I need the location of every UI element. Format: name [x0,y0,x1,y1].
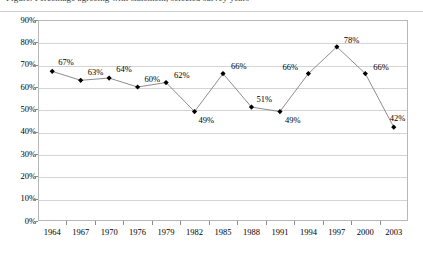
data-point-marker [107,75,112,80]
y-tick-label: 70% [2,60,36,69]
y-tick-mark [34,221,38,222]
x-tick-mark [209,221,210,225]
data-point-label: 66% [282,63,298,72]
data-point-label: 64% [116,65,132,74]
x-tick-label: 2000 [357,228,374,237]
x-tick-label: 1991 [271,228,288,237]
x-tick-label: 1985 [215,228,232,237]
x-tick-label: 1997 [328,228,345,237]
data-point-label: 51% [256,95,272,104]
x-tick-mark [66,221,67,225]
x-tick-label: 1967 [72,228,89,237]
data-point-marker [391,125,396,130]
x-tick-mark [180,221,181,225]
x-tick-mark [95,221,96,225]
data-point-label: 66% [373,63,389,72]
x-tick-mark [123,221,124,225]
y-tick-label: 10% [2,194,36,203]
x-tick-mark [294,221,295,225]
x-tick-mark [266,221,267,225]
data-point-label: 62% [174,71,190,80]
chart-container: Figure. Percentage agreeing with stateme… [0,0,423,255]
y-tick-label: 30% [2,150,36,159]
data-point-label: 60% [145,75,161,84]
x-tick-label: 2003 [385,228,402,237]
data-point-label: 49% [285,116,301,125]
x-tick-label: 1982 [186,228,203,237]
data-point-marker [50,69,55,74]
data-point-label: 67% [58,58,74,67]
y-tick-label: 0% [2,217,36,226]
y-tick-label: 80% [2,38,36,47]
x-tick-label: 1976 [129,228,146,237]
x-tick-label: 1964 [44,228,61,237]
series-line [52,47,394,127]
x-tick-mark [152,221,153,225]
y-tick-label: 90% [2,16,36,25]
cropped-caption-strip: Figure. Percentage agreeing with stateme… [0,0,423,12]
cropped-caption-text: Figure. Percentage agreeing with stateme… [6,0,249,3]
x-tick-label: 1979 [158,228,175,237]
data-point-label: 66% [231,62,247,71]
y-tick-label: 40% [2,127,36,136]
y-axis: 0%10%20%30%40%50%60%70%80%90% [0,0,36,255]
x-tick-label: 1994 [300,228,317,237]
data-point-marker [78,78,83,83]
series-layer: 67%63%64%60%62%49%66%51%49%66%78%66%42% [38,20,408,221]
data-point-label: 42% [390,114,406,123]
x-tick-mark [323,221,324,225]
line-series-svg [38,20,408,221]
data-point-label: 78% [344,36,360,45]
x-tick-mark [380,221,381,225]
data-point-label: 63% [88,68,104,77]
x-tick-label: 1988 [243,228,260,237]
data-point-label: 49% [199,116,215,125]
x-axis: 1964196719701976197919821985198819911994… [38,228,408,242]
x-tick-mark [351,221,352,225]
y-tick-label: 50% [2,105,36,114]
data-point-marker [135,84,140,89]
x-tick-mark [237,221,238,225]
y-tick-label: 60% [2,83,36,92]
y-tick-label: 20% [2,172,36,181]
x-tick-label: 1970 [101,228,118,237]
